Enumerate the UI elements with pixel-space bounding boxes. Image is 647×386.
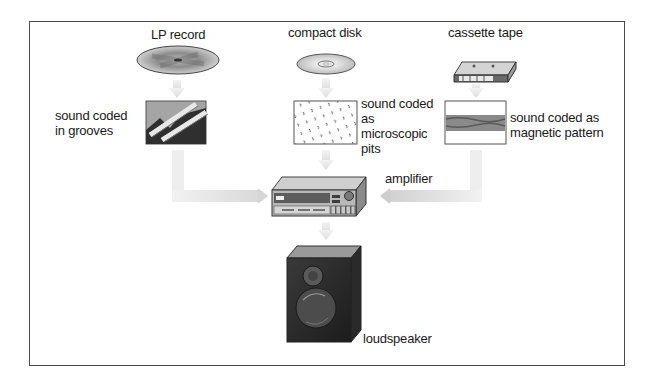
- compact-disk-icon: [297, 54, 355, 74]
- loudspeaker-icon: [287, 246, 361, 342]
- grooves-illustration: [146, 101, 208, 144]
- pits-illustration: [294, 101, 357, 144]
- label-amplifier: amplifier: [385, 171, 432, 186]
- cassette-tape-icon: [454, 62, 516, 82]
- source-illustrations: [0, 0, 647, 386]
- label-sound-coded-grooves: sound coded in grooves: [55, 108, 127, 138]
- label-loudspeaker: loudspeaker: [363, 331, 432, 346]
- label-sound-coded-pits: sound coded as microscopic pits: [361, 96, 433, 156]
- label-sound-coded-magnetic: sound coded as magnetic pattern: [510, 110, 604, 140]
- magnetic-pattern-illustration: [445, 101, 506, 144]
- amplifier-icon: [272, 177, 366, 216]
- lp-record-icon: [137, 46, 219, 74]
